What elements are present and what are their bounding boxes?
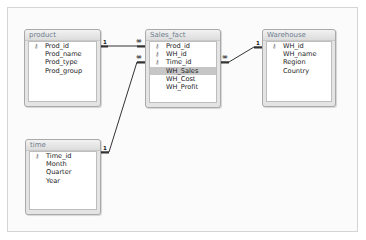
field-row[interactable]: WH_name bbox=[267, 50, 331, 58]
rel-line-time-sales[interactable] bbox=[101, 62, 145, 152]
table-sales-fact[interactable]: Sales_fact ⚷Prod_id ⚷WH_id ⚷Time_id WH_S… bbox=[145, 29, 221, 108]
table-title[interactable]: product bbox=[25, 30, 100, 41]
field-name: WH_name bbox=[283, 50, 316, 58]
field-row[interactable]: ⚷Time_id bbox=[30, 152, 96, 160]
field-name: Region bbox=[283, 58, 306, 66]
rel-many-label: ∞ bbox=[136, 38, 142, 44]
field-name: Prod_name bbox=[45, 50, 82, 58]
field-name: Prod_id bbox=[166, 42, 190, 50]
field-name: Prod_id bbox=[45, 42, 69, 50]
field-name: Year bbox=[46, 177, 60, 185]
key-icon: ⚷ bbox=[155, 42, 159, 50]
field-list: ⚷WH_id WH_name Region Country bbox=[266, 41, 332, 102]
field-name: WH_id bbox=[283, 42, 304, 50]
field-list: ⚷Prod_id ⚷WH_id ⚷Time_id WH_Sales WH_Cos… bbox=[149, 41, 217, 103]
field-row[interactable]: Region bbox=[267, 58, 331, 66]
field-row[interactable]: Prod_group bbox=[29, 67, 96, 75]
field-name: Time_id bbox=[46, 152, 71, 160]
field-name: WH_id bbox=[166, 50, 187, 58]
field-row-selected[interactable]: WH_Sales bbox=[150, 67, 216, 75]
key-icon: ⚷ bbox=[35, 152, 39, 160]
field-list: ⚷Time_id Month Quarter Year bbox=[29, 151, 97, 210]
table-title[interactable]: Sales_fact bbox=[146, 30, 220, 41]
table-time[interactable]: time ⚷Time_id Month Quarter Year bbox=[25, 139, 101, 215]
field-row[interactable]: ⚷WH_id bbox=[150, 50, 216, 58]
field-name: Prod_type bbox=[45, 58, 78, 66]
field-name: Prod_group bbox=[45, 67, 82, 75]
key-icon: ⚷ bbox=[155, 50, 159, 58]
field-name: Country bbox=[283, 67, 309, 75]
table-title[interactable]: Warehouse bbox=[263, 30, 335, 41]
key-icon: ⚷ bbox=[34, 42, 38, 50]
field-row[interactable]: Country bbox=[267, 67, 331, 75]
table-title[interactable]: time bbox=[26, 140, 100, 151]
field-row[interactable]: ⚷Prod_id bbox=[150, 42, 216, 50]
field-row[interactable]: Prod_type bbox=[29, 58, 96, 66]
field-row[interactable]: ⚷WH_id bbox=[267, 42, 331, 50]
field-row[interactable]: Prod_name bbox=[29, 50, 96, 58]
field-row[interactable]: Month bbox=[30, 160, 96, 168]
table-warehouse[interactable]: Warehouse ⚷WH_id WH_name Region Country bbox=[262, 29, 336, 107]
rel-many-label: ∞ bbox=[136, 54, 142, 60]
rel-one-label: 1 bbox=[256, 40, 260, 46]
rel-one-label: 1 bbox=[103, 39, 107, 45]
field-name: Month bbox=[46, 160, 67, 168]
table-product[interactable]: product ⚷Prod_id Prod_name Prod_type Pro… bbox=[24, 29, 101, 107]
field-row[interactable]: Year bbox=[30, 177, 96, 185]
field-name: Time_id bbox=[166, 58, 191, 66]
field-row[interactable]: ⚷Time_id bbox=[150, 58, 216, 66]
key-icon: ⚷ bbox=[155, 58, 159, 66]
field-row[interactable]: Quarter bbox=[30, 168, 96, 176]
field-list: ⚷Prod_id Prod_name Prod_type Prod_group bbox=[28, 41, 97, 102]
field-name: WH_Cost bbox=[166, 75, 195, 83]
field-name: Quarter bbox=[46, 168, 71, 176]
field-row[interactable]: WH_Cost bbox=[150, 75, 216, 83]
rel-one-label: 1 bbox=[103, 145, 107, 151]
field-name: WH_Sales bbox=[166, 67, 198, 75]
rel-many-label: ∞ bbox=[222, 54, 228, 60]
field-name: WH_Profit bbox=[166, 83, 198, 91]
field-row[interactable]: WH_Profit bbox=[150, 83, 216, 91]
key-icon: ⚷ bbox=[272, 42, 276, 50]
field-row[interactable]: ⚷Prod_id bbox=[29, 42, 96, 50]
